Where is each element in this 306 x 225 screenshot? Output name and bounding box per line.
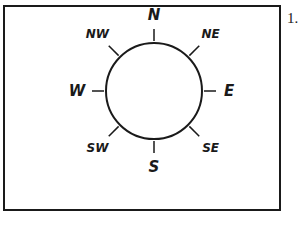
direction-label-se: SE [202, 141, 220, 155]
tick-se [189, 126, 199, 136]
direction-label-e: E [224, 82, 235, 100]
direction-label-sw: SW [86, 141, 109, 155]
direction-label-w: W [69, 82, 87, 100]
tick-sw [109, 126, 119, 136]
direction-label-nw: NW [86, 27, 110, 41]
compass-circle [106, 43, 202, 139]
item-number: 1. [287, 10, 298, 27]
tick-nw [109, 46, 119, 56]
tick-ne [189, 46, 199, 56]
compass-rose-diagram: NNEESESSWWNW [0, 0, 306, 225]
direction-label-s: S [149, 158, 160, 176]
direction-label-n: N [148, 6, 161, 24]
direction-label-ne: NE [201, 27, 220, 41]
compass-ticks [92, 29, 216, 153]
